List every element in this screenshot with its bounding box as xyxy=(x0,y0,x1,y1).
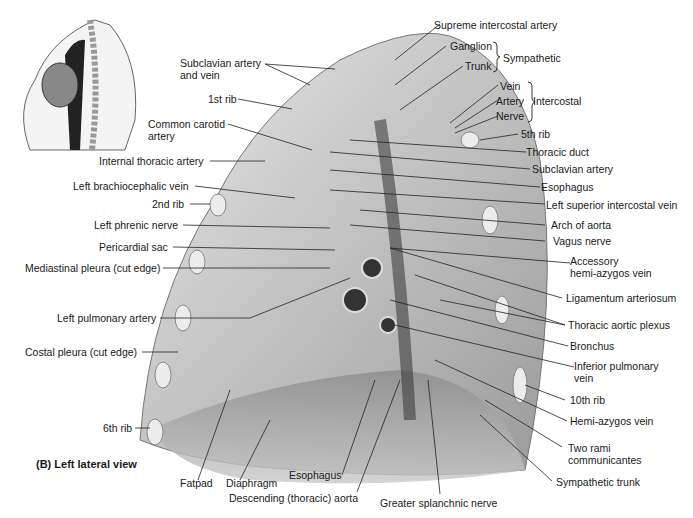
label-5th-rib: 5th rib xyxy=(521,128,550,140)
label-trunk: Trunk xyxy=(465,60,491,72)
figure-caption: (B) Left lateral view xyxy=(36,458,137,470)
label-mediastinal-pleura: Mediastinal pleura (cut edge) xyxy=(25,262,160,274)
label-pericardial-sac: Pericardial sac xyxy=(99,241,168,253)
label-sympathetic-trunk: Sympathetic trunk xyxy=(556,476,640,488)
label-ligamentum-arteriosum: Ligamentum arteriosum xyxy=(566,292,676,304)
label-thoracic-duct: Thoracic duct xyxy=(526,146,589,158)
label-nerve: Nerve xyxy=(496,110,524,122)
label-hemi-azygos-vein: Hemi-azygos vein xyxy=(570,415,653,427)
label-accessory-hemi-azygos-vein: Accessory hemi-azygos vein xyxy=(570,255,652,279)
label-vein: Vein xyxy=(500,80,520,92)
label-costal-pleura: Costal pleura (cut edge) xyxy=(25,346,137,358)
label-inferior-pulmonary-vein: Inferior pulmonary vein xyxy=(574,360,659,384)
label-bronchus: Bronchus xyxy=(570,340,614,352)
label-left-superior-intercostal-vein: Left superior intercostal vein xyxy=(546,199,677,211)
label-left-brachiocephalic-vein: Left brachiocephalic vein xyxy=(73,180,189,192)
label-artery: Artery xyxy=(496,95,524,107)
inset-sketch xyxy=(24,20,136,150)
label-subclavian-artery: Subclavian artery xyxy=(532,163,613,175)
label-2nd-rib: 2nd rib xyxy=(152,198,184,210)
label-esophagus-right: Esophagus xyxy=(541,181,594,193)
label-diaphragm: Diaphragm xyxy=(226,477,277,489)
label-ganglion: Ganglion xyxy=(450,40,492,52)
label-descending-aorta: Descending (thoracic) aorta xyxy=(229,492,358,504)
label-greater-splanchnic-nerve: Greater splanchnic nerve xyxy=(380,497,497,509)
label-thoracic-aortic-plexus: Thoracic aortic plexus xyxy=(568,319,670,331)
label-left-phrenic-nerve: Left phrenic nerve xyxy=(94,219,178,231)
label-6th-rib: 6th rib xyxy=(103,422,132,434)
label-internal-thoracic-artery: Internal thoracic artery xyxy=(99,155,203,167)
label-intercostal: Intercostal xyxy=(533,95,581,107)
label-subclavian-artery-and-vein: Subclavian artery and vein xyxy=(180,57,261,81)
label-two-rami-communicantes: Two rami communicantes xyxy=(568,442,642,466)
label-common-carotid-artery: Common carotid artery xyxy=(148,118,225,142)
label-vagus-nerve: Vagus nerve xyxy=(553,235,611,247)
label-10th-rib: 10th rib xyxy=(570,394,605,406)
label-1st-rib: 1st rib xyxy=(208,93,237,105)
label-sympathetic: Sympathetic xyxy=(503,52,561,64)
label-fatpad: Fatpad xyxy=(180,477,213,489)
anatomy-figure: (B) Left lateral view Subclavian artery … xyxy=(0,0,693,518)
label-left-pulmonary-artery: Left pulmonary artery xyxy=(57,312,156,324)
label-supreme-intercostal-artery: Supreme intercostal artery xyxy=(434,19,557,31)
label-esophagus-bottom: Esophagus xyxy=(289,469,342,481)
label-arch-of-aorta: Arch of aorta xyxy=(551,219,611,231)
